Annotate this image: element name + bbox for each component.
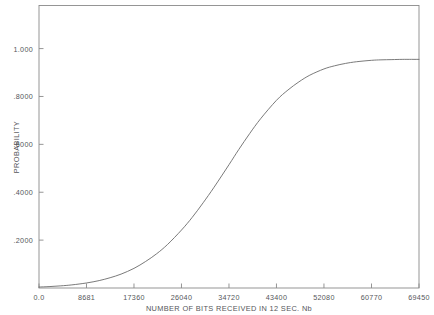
x-tick-label: 17360 [123, 293, 145, 302]
x-tick-label: 52080 [313, 293, 335, 302]
x-tick-label: 69450 [408, 293, 430, 302]
x-tick-label: 8681 [78, 293, 95, 302]
x-tick-label: 43400 [266, 293, 288, 302]
plot-canvas [0, 0, 434, 315]
y-tick-label: .8000 [0, 92, 33, 101]
plot-frame [39, 6, 419, 289]
x-tick-label: 34720 [218, 293, 240, 302]
probability-curve [39, 59, 419, 287]
x-axis-ticks [39, 284, 419, 289]
x-tick-label: 26040 [171, 293, 193, 302]
y-axis-ticks [39, 49, 44, 241]
x-axis-title: NUMBER OF BITS RECEIVED IN 12 SEC. Nb [146, 304, 312, 313]
y-tick-label: .4000 [0, 188, 33, 197]
data-curve-group [39, 59, 419, 287]
x-tick-label: 60770 [361, 293, 383, 302]
y-tick-label: .2000 [0, 236, 33, 245]
y-axis-title: PROBABILITY [12, 121, 21, 173]
y-tick-label: 1.000 [0, 44, 33, 53]
x-tick-label: 0.0 [34, 293, 45, 302]
plot-frame-rect [39, 6, 419, 289]
chart-figure: 0.08681173602604034720434005208060770694… [0, 0, 434, 315]
